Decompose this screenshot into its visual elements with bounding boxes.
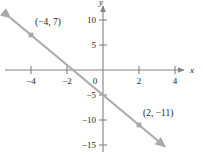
y-axis-label: y (99, 0, 103, 7)
y-tick-label-5: 5 (92, 41, 97, 50)
data-point-marker-b (137, 123, 142, 128)
data-point-marker-a (29, 33, 34, 38)
y-tick-label--5: −5 (86, 91, 96, 100)
x-tick-label-4: 4 (173, 77, 178, 86)
y-tick-label--10: −10 (82, 116, 96, 125)
y-tick-label--15: −15 (82, 141, 96, 150)
x-axis-label: x (190, 66, 194, 75)
x-tick-label-2: 2 (137, 77, 142, 86)
label-point-b: (2, −11) (143, 109, 173, 119)
x-tick-label-0: 0 (93, 77, 98, 86)
x-tick-label--4: −4 (26, 77, 36, 86)
coordinate-plane-figure: −4 −2 0 2 4 10 5 −5 −10 −15 x y (−4, 7) … (0, 0, 203, 155)
x-tick-label--2: −2 (62, 77, 72, 86)
y-axis (99, 6, 107, 152)
label-point-a: (−4, 7) (35, 18, 61, 28)
y-tick-label-10: 10 (87, 16, 96, 25)
x-axis (5, 66, 184, 74)
